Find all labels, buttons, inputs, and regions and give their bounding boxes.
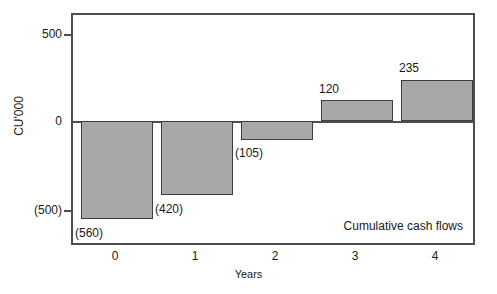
bar-value-year-3: 120 — [279, 83, 379, 95]
y-tick-label-neg500: (500) — [34, 204, 62, 216]
y-axis-title: CU'000 — [13, 76, 25, 156]
bar-value-year-0: (560) — [39, 227, 139, 239]
y-tick-mark-500 — [64, 34, 71, 36]
bar-value-year-4: 235 — [359, 62, 459, 74]
x-tick-label-4: 4 — [385, 250, 485, 262]
bar-year-2 — [241, 121, 313, 140]
cumulative-cash-flow-chart: 500 0 (500) CU'000 Cumulative cash flows — [0, 0, 497, 294]
bar-value-year-1: (420) — [119, 203, 219, 215]
bar-value-year-2: (105) — [199, 147, 299, 159]
bar-year-4 — [401, 80, 473, 121]
x-axis-title: Years — [0, 268, 497, 280]
y-tick-neg500: (500) — [0, 204, 62, 216]
y-tick-500: 500 — [0, 28, 62, 40]
bar-year-3 — [321, 100, 393, 121]
y-tick-label-500: 500 — [42, 28, 62, 40]
cumulative-cash-flows-annotation: Cumulative cash flows — [344, 220, 463, 233]
y-tick-0: 0 — [0, 115, 62, 127]
y-tick-label-0: 0 — [55, 115, 62, 127]
y-tick-mark-neg500 — [64, 210, 71, 212]
